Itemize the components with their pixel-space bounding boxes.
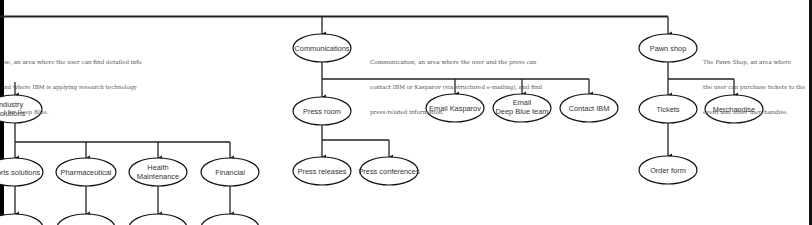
site-map-diagram: Industry Solutions Sports solutions Phar…: [0, 0, 812, 225]
node-tickets: Tickets: [639, 95, 697, 123]
research-description: se, an area where the user can find deta…: [4, 42, 142, 132]
svg-text:Financial: Financial: [215, 168, 245, 177]
svg-text:Pawn shop: Pawn shop: [650, 44, 687, 53]
svg-text:Order form: Order form: [650, 166, 686, 175]
svg-text:Press conferences: Press conferences: [358, 167, 420, 176]
svg-text:Press releases: Press releases: [298, 167, 347, 176]
svg-text:Tickets: Tickets: [656, 105, 679, 114]
svg-text:Communications: Communications: [294, 44, 349, 53]
node-order-form: Order form: [639, 156, 697, 184]
node-pharmaceutical: Pharmaceutical: [56, 158, 116, 186]
node-communications: Communications: [293, 34, 351, 62]
bottom-partial-nodes: [0, 214, 259, 225]
svg-text:Press room: Press room: [303, 107, 341, 116]
node-sports-solutions: Sports solutions: [0, 158, 43, 186]
research-desc-line-3: l for Deep Blue.: [4, 108, 142, 116]
node-press-conferences: Press conferences: [358, 157, 420, 185]
node-pawn-shop: Pawn shop: [639, 34, 697, 62]
svg-text:Contact IBM: Contact IBM: [569, 104, 610, 113]
comm-desc-line-2: contact IBM or Kasparov (via structured …: [370, 83, 542, 91]
node-health-maintenance: Health Maintenance: [129, 158, 187, 186]
svg-text:Sports solutions: Sports solutions: [0, 168, 41, 177]
node-contact-ibm: Contact IBM: [560, 94, 618, 122]
node-financial: Financial: [201, 158, 259, 186]
comm-desc-line-3: press-related information.: [370, 108, 542, 116]
pawn-shop-description: The Pawn Shop, an area where the user ca…: [703, 42, 805, 132]
svg-text:Pharmaceutical: Pharmaceutical: [61, 168, 112, 177]
node-press-room: Press room: [293, 97, 351, 125]
pawn-desc-line-1: The Pawn Shop, an area where: [703, 58, 805, 66]
research-desc-line-1: se, an area where the user can find deta…: [4, 58, 142, 66]
pawn-desc-line-3: event and other merchandise.: [703, 108, 805, 116]
comm-desc-line-1: Communication, an area where the user an…: [370, 58, 542, 66]
pawn-desc-line-2: the user can purchase tickets to the: [703, 83, 805, 91]
svg-text:Health: Health: [147, 163, 168, 172]
svg-text:Maintenance: Maintenance: [137, 172, 179, 181]
node-press-releases: Press releases: [293, 157, 351, 185]
research-desc-line-2: nd where IBM is applying research techno…: [4, 83, 142, 91]
communications-description: Communication, an area where the user an…: [370, 42, 542, 132]
